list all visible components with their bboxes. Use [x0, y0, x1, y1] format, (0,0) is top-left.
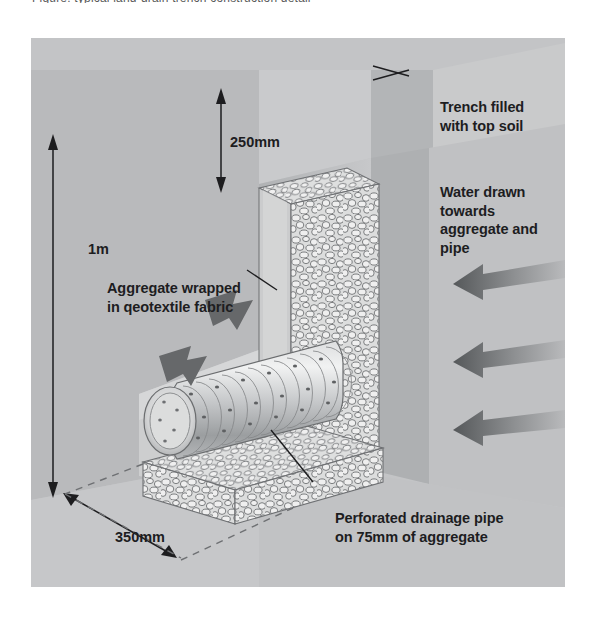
- label-water-drawn-towards-aggregate-and-pipe: Water drawn towards aggregate and pipe: [440, 183, 565, 257]
- figure-page: Figure: typical land-drain trench constr…: [0, 0, 596, 623]
- clipped-caption-text: Figure: typical land-drain trench constr…: [32, 0, 572, 3]
- dimension-label-1m: 1m: [88, 241, 109, 257]
- label-trench-filled-with-top-soil: Trench filled with top soil: [440, 98, 524, 135]
- dimension-label-350mm: 350mm: [115, 529, 165, 545]
- label-aggregate-wrapped-in-geotextile-fabric: Aggregate wrapped in qeotextile fabric: [107, 279, 241, 316]
- dimension-label-250mm: 250mm: [230, 134, 280, 150]
- label-perforated-drainage-pipe: Perforated drainage pipe on 75mm of aggr…: [335, 509, 503, 546]
- drainage-diagram-panel: Trench filled with top soil Water drawn …: [31, 38, 565, 587]
